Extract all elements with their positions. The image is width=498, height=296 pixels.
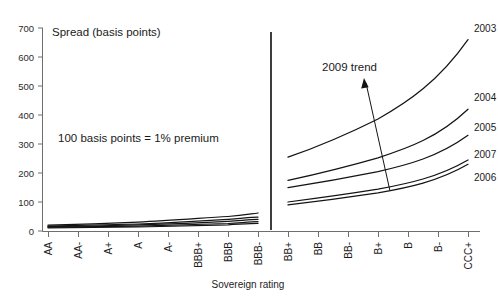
- y-tick-label: 200: [18, 168, 34, 179]
- y-axis-title: Spread (basis points): [52, 26, 161, 38]
- premium-note: 100 basis points = 1% premium: [58, 132, 219, 144]
- x-tick-label: A+: [103, 242, 114, 255]
- series-label-2005: 2005: [474, 122, 497, 133]
- spread-vs-rating-line-chart: 700 600 500 400 300 200 100 0: [0, 0, 498, 296]
- series-curve-2003: [288, 40, 468, 158]
- x-axis-ticks: [49, 232, 469, 238]
- y-tick-label: 300: [18, 139, 34, 150]
- investment-grade-curves: [48, 213, 258, 228]
- series-label-2003: 2003: [474, 23, 497, 34]
- x-tick-label: BB: [313, 242, 324, 256]
- y-tick-label: 600: [18, 52, 34, 63]
- series-label-2004: 2004: [474, 92, 497, 103]
- series-curve-2005: [288, 135, 468, 187]
- y-tick-label: 500: [18, 81, 34, 92]
- x-tick-label: BBB: [223, 242, 234, 262]
- x-tick-label: AA: [43, 242, 54, 256]
- x-tick-label: BBB-: [253, 242, 264, 265]
- series-curve-2007: [288, 160, 468, 202]
- x-tick-label: BB+: [283, 242, 294, 261]
- series-label-2007: 2007: [474, 149, 497, 160]
- trend-arrow-head-icon: [361, 78, 368, 89]
- y-tick-label: 0: [29, 226, 34, 237]
- x-tick-label: B-: [433, 242, 444, 252]
- x-tick-label: B: [403, 242, 414, 249]
- trend-annotation-label: 2009 trend: [322, 61, 377, 73]
- x-tick-label: BB-: [343, 242, 354, 259]
- y-axis-tick-labels: 700 600 500 400 300 200 100 0: [18, 23, 34, 237]
- series-label-2006: 2006: [474, 172, 497, 183]
- speculative-grade-curves: [288, 40, 468, 205]
- x-tick-label: A: [133, 242, 144, 249]
- x-tick-label: BBB+: [193, 242, 204, 268]
- y-tick-label: 400: [18, 110, 34, 121]
- x-tick-label: AA-: [73, 242, 84, 259]
- series-labels: 2003 2004 2005 2007 2006: [474, 23, 497, 183]
- y-tick-label: 700: [18, 23, 34, 34]
- trend-arrow-line: [366, 83, 390, 191]
- x-axis-title: Sovereign rating: [212, 279, 285, 290]
- x-tick-label: A-: [163, 242, 174, 252]
- series-curve-2004: [288, 109, 468, 180]
- x-tick-label: B+: [373, 242, 384, 255]
- y-tick-label: 100: [18, 197, 34, 208]
- x-tick-label: CCC+: [463, 242, 474, 270]
- x-axis-tick-labels: AA AA- A+ A A- BBB+ BBB BBB- BB+ BB BB- …: [43, 242, 474, 270]
- chart-figure: 700 600 500 400 300 200 100 0: [0, 0, 498, 296]
